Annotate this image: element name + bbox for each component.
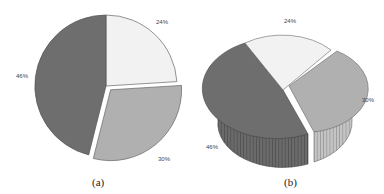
label-b-24: 24%: [284, 18, 297, 24]
pie-chart-b: 24% 30% 46% (b): [202, 18, 374, 189]
label-a-24: 24%: [156, 19, 169, 25]
caption-a: (a): [92, 176, 105, 189]
caption-b: (b): [284, 176, 297, 189]
pie-chart-a: 24% 46% 30% (a): [16, 15, 182, 189]
figure: 24% 46% 30% (a) 24% 30% 46% (b): [0, 0, 384, 194]
slice-a-46: [35, 15, 106, 155]
label-a-30: 30%: [158, 156, 171, 162]
slice-a-24: [106, 15, 177, 86]
label-a-46: 46%: [16, 73, 29, 79]
label-b-30: 30%: [362, 97, 375, 103]
slice-a-30: [93, 85, 181, 160]
label-b-46: 46%: [206, 144, 219, 150]
